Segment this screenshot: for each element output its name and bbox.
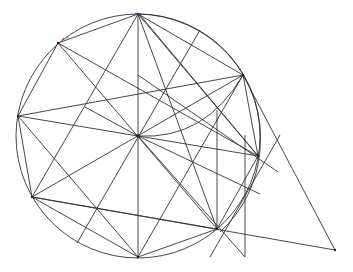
vertex-upper-right (242, 74, 244, 76)
vertex-upper-left (57, 42, 59, 44)
vertex-bottom (137, 256, 139, 258)
diagram-svg (0, 0, 353, 272)
vertex-lower-left (31, 196, 33, 198)
vertex-lower-right (216, 228, 218, 230)
vertex-far (334, 249, 336, 251)
construction-lines (32, 75, 335, 257)
geometry-diagram (0, 0, 353, 272)
vertex-dots (17, 13, 336, 258)
center-point (136, 134, 140, 138)
vertex-left (17, 115, 19, 117)
vertex-right (257, 155, 259, 157)
